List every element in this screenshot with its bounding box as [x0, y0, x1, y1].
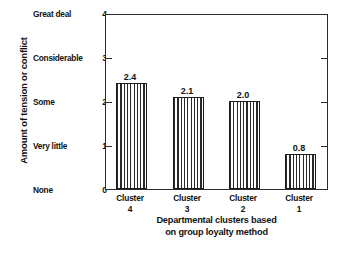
- x-axis-title-line2: on group loyalty method: [105, 227, 328, 239]
- x-tick-label-cluster-4: Cluster 4: [100, 193, 160, 215]
- scan-bleed-artifact: [0, 244, 338, 253]
- x-tick-label-cluster-2-line1: Cluster: [213, 193, 273, 204]
- x-tick-label-cluster-1: Cluster 1: [269, 193, 329, 215]
- x-tick-label-cluster-2: Cluster 2: [213, 193, 273, 215]
- bar-chart-figure: Amount of tension or conflict Great deal…: [0, 0, 338, 253]
- x-tick-label-cluster-3-line1: Cluster: [157, 193, 217, 204]
- x-tick-label-cluster-3-line2: 3: [157, 204, 217, 215]
- x-axis-title: Departmental clusters based on group loy…: [105, 215, 328, 238]
- x-tick-label-cluster-1-line1: Cluster: [269, 193, 329, 204]
- x-tick-label-cluster-2-line2: 2: [213, 204, 273, 215]
- x-tick-label-cluster-3: Cluster 3: [157, 193, 217, 215]
- x-tick-label-cluster-1-line2: 1: [269, 204, 329, 215]
- x-axis-title-line1: Departmental clusters based: [105, 215, 328, 227]
- x-tick-label-cluster-4-line2: 4: [100, 204, 160, 215]
- x-tick-label-cluster-4-line1: Cluster: [100, 193, 160, 204]
